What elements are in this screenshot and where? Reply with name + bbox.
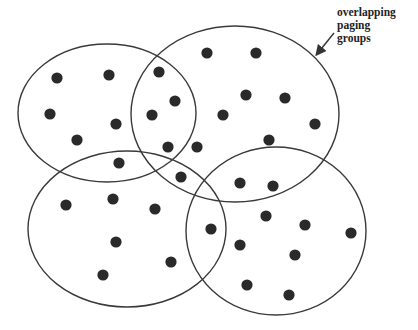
page-nodes: [44, 47, 356, 300]
page-node: [267, 180, 278, 191]
page-node: [250, 47, 261, 58]
overlapping-paging-groups-label: overlapping paging groups: [337, 6, 396, 45]
page-node: [51, 72, 62, 83]
label-line-3: groups: [337, 32, 396, 45]
page-node: [263, 134, 274, 145]
page-node: [110, 118, 121, 129]
page-node: [97, 269, 108, 280]
page-node: [260, 210, 271, 221]
page-node: [149, 203, 160, 214]
page-node: [241, 279, 252, 290]
page-node: [217, 109, 228, 120]
page-node: [71, 134, 82, 145]
page-node: [60, 199, 71, 210]
label-line-1: overlapping: [337, 6, 396, 19]
paging-groups-diagram: [0, 0, 418, 330]
page-node: [299, 219, 310, 230]
page-node: [162, 141, 173, 152]
page-node: [103, 69, 114, 80]
page-node: [107, 193, 118, 204]
page-node: [309, 118, 320, 129]
page-node: [44, 108, 55, 119]
page-node: [234, 239, 245, 250]
page-node: [110, 236, 121, 247]
page-node: [345, 227, 356, 238]
page-node: [175, 171, 186, 182]
page-node: [169, 95, 180, 106]
page-node: [234, 177, 245, 188]
page-node: [201, 47, 212, 58]
page-node: [146, 109, 157, 120]
page-node: [153, 66, 164, 77]
page-node: [283, 289, 294, 300]
bottom-left-group: [28, 151, 226, 307]
page-node: [289, 249, 300, 260]
page-node: [113, 157, 124, 168]
arrow-icon: [317, 33, 334, 54]
label-line-2: paging: [337, 19, 396, 32]
group-ellipses: [18, 26, 366, 315]
page-node: [240, 89, 251, 100]
page-node: [191, 141, 202, 152]
page-node: [205, 223, 216, 234]
page-node: [165, 256, 176, 267]
page-node: [279, 92, 290, 103]
top-right-group: [131, 26, 339, 202]
